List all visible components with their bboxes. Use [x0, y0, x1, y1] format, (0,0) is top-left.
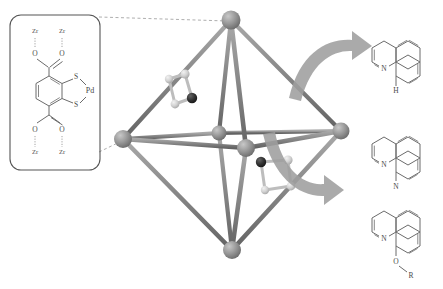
label-s-lower: S [74, 100, 78, 109]
cluster-vertex-front [237, 139, 255, 157]
cluster-vertex-bottom [223, 241, 241, 259]
label-n-product3: N [381, 234, 387, 243]
cluster-vertex-left [114, 130, 132, 148]
label-zr-top-right: Zr [59, 27, 66, 34]
cluster-vertex-right [333, 123, 350, 140]
label-s-upper: S [74, 72, 78, 81]
label-zr-bottom-left: Zr [32, 148, 39, 155]
label-n-product1: N [381, 64, 387, 73]
label-o-bottom-right: O [59, 125, 65, 134]
label-o-top-right: O [59, 49, 65, 58]
ligand-atom-light-1 [165, 75, 173, 83]
ligand-atom-dark-1 [187, 93, 197, 103]
label-r-product3: R [408, 271, 413, 280]
reaction-scheme-figure: Zr Zr O O S S Pd [0, 0, 443, 289]
label-h-product1: H [393, 86, 399, 95]
ligand-atom-dark-2 [256, 157, 266, 167]
label-n-product2: N [381, 160, 387, 169]
label-pd: Pd [86, 86, 94, 95]
ligand-atom-light-5 [261, 186, 269, 194]
cluster-vertex-top [222, 11, 241, 30]
label-zr-top-left: Zr [32, 27, 39, 34]
label-o-product3: O [393, 257, 399, 266]
ligand-atom-light-2 [180, 69, 189, 78]
label-zr-bottom-right: Zr [59, 148, 66, 155]
label-o-bottom-left: O [32, 125, 38, 134]
label-o-top-left: O [32, 49, 38, 58]
label-substituent-n-product2: N [393, 182, 399, 191]
cluster-vertex-back [212, 126, 227, 141]
ligand-atom-light-3 [171, 100, 180, 109]
